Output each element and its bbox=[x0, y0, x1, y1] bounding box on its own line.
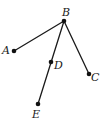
label-a: A bbox=[1, 44, 10, 57]
label-b: B bbox=[61, 6, 70, 19]
node-e bbox=[36, 102, 41, 107]
node-a bbox=[12, 49, 17, 54]
node-b bbox=[62, 19, 67, 24]
label-e: E bbox=[31, 108, 40, 121]
node-d bbox=[49, 60, 54, 65]
tree-diagram: B A D C E bbox=[0, 0, 103, 125]
label-c: C bbox=[91, 71, 100, 84]
edge-b-c bbox=[64, 21, 89, 74]
label-d: D bbox=[53, 59, 63, 72]
